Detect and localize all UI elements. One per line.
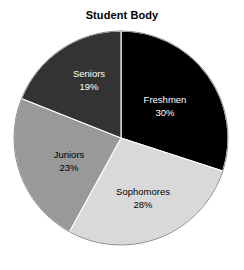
pie-chart-figure: Student Body Freshmen30%Sophomores28%Jun… — [0, 0, 244, 270]
pie-slice-value-seniors: 19% — [79, 81, 99, 92]
pie-slice-value-sophomores: 28% — [133, 199, 153, 210]
pie-chart-canvas: Freshmen30%Sophomores28%Juniors23%Senior… — [0, 0, 244, 270]
pie-slice-label-freshmen: Freshmen — [144, 94, 187, 105]
pie-slice-label-sophomores: Sophomores — [116, 186, 170, 197]
pie-slice-value-juniors: 23% — [59, 162, 79, 173]
pie-slice-value-freshmen: 30% — [155, 107, 175, 118]
pie-slice-label-seniors: Seniors — [73, 68, 105, 79]
pie-slices-group — [14, 31, 228, 245]
pie-slice-label-juniors: Juniors — [54, 149, 85, 160]
